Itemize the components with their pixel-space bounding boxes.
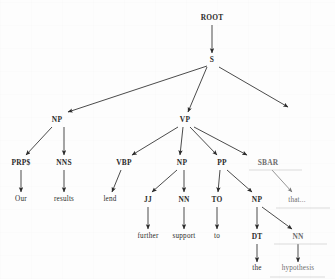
leaf-lend[interactable]: lend <box>103 196 116 203</box>
edge-np-prp <box>26 127 52 155</box>
node-prp-dollar[interactable]: PRP$ <box>12 159 31 166</box>
leaf-support[interactable]: support <box>173 233 196 240</box>
edge-vp-vbp <box>132 127 178 155</box>
node-s[interactable]: S <box>210 56 214 63</box>
node-root[interactable]: ROOT <box>201 14 224 21</box>
edge-vp-sbar <box>194 127 247 155</box>
edge-vp-pp <box>190 127 217 155</box>
edge-s-vp <box>188 67 207 112</box>
leaf-hypothesis[interactable]: hypothesis <box>282 265 315 272</box>
node-nns[interactable]: NNS <box>56 159 71 166</box>
leaf-results[interactable]: results <box>54 196 74 203</box>
edge-sbar-that <box>272 170 292 192</box>
edge-s-right <box>219 67 288 107</box>
parse-tree-figure: ROOT S NP VP PRP$ NNS VBP NP PP SBAR Our… <box>0 0 335 279</box>
node-np-subject[interactable]: NP <box>52 116 62 123</box>
node-dt[interactable]: DT <box>252 233 263 240</box>
leaf-the[interactable]: the <box>252 265 261 272</box>
node-np-pp[interactable]: NP <box>252 196 262 203</box>
leaf-our[interactable]: Our <box>15 196 27 203</box>
node-nn-support[interactable]: NN <box>178 196 189 203</box>
leaf-that-ellipsis[interactable]: that... <box>288 197 306 204</box>
node-np-object[interactable]: NP <box>177 159 187 166</box>
watermark-rules <box>249 170 330 277</box>
node-pp[interactable]: PP <box>217 159 226 166</box>
edge-group <box>21 25 298 262</box>
leaf-to[interactable]: to <box>214 233 220 240</box>
edge-pp-to <box>218 170 220 192</box>
edge-group-faded <box>272 170 292 192</box>
edge-vbp-lend <box>112 170 121 192</box>
edge-np-jj <box>152 170 177 192</box>
node-vbp[interactable]: VBP <box>116 159 131 166</box>
edge-s-np <box>68 66 207 112</box>
node-to[interactable]: TO <box>212 196 223 203</box>
node-jj[interactable]: JJ <box>144 196 152 203</box>
node-nn-hypothesis[interactable]: NN <box>292 233 303 240</box>
edge-pp-nppp <box>227 170 252 192</box>
node-sbar[interactable]: SBAR <box>258 159 279 166</box>
tree-edges-svg <box>0 0 335 279</box>
edge-vp-np <box>180 127 183 155</box>
leaf-further[interactable]: further <box>138 233 159 240</box>
node-vp[interactable]: VP <box>180 116 190 123</box>
edge-nppp-nn <box>262 207 292 229</box>
